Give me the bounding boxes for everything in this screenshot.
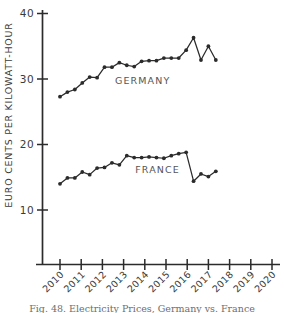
data-point-france [103, 166, 107, 170]
data-point-france [199, 172, 203, 176]
x-tick-label: 2016 [167, 269, 193, 295]
data-point-germany [125, 63, 129, 67]
data-point-france [140, 156, 144, 160]
data-point-france [162, 156, 166, 160]
x-tick-label: 2010 [40, 269, 66, 295]
data-point-france [95, 166, 99, 170]
data-point-france [207, 175, 211, 179]
data-point-germany [207, 44, 211, 48]
data-point-france [132, 156, 136, 160]
x-tick-label: 2017 [189, 269, 215, 295]
data-point-germany [140, 59, 144, 63]
data-point-france [117, 163, 121, 167]
data-point-germany [95, 76, 99, 80]
data-point-france [110, 161, 114, 165]
y-axis-title: EURO CENTS PER KILOWATT-HOUR [3, 22, 14, 207]
data-point-germany [184, 48, 188, 52]
data-point-germany [117, 61, 121, 65]
data-point-france [80, 170, 84, 174]
data-point-germany [103, 65, 107, 69]
data-point-germany [73, 88, 77, 92]
data-point-germany [162, 56, 166, 60]
x-tick-label: 2011 [61, 269, 87, 295]
series-line-germany [60, 38, 216, 97]
series-label-france: FRANCE [135, 164, 180, 175]
data-point-germany [88, 75, 92, 79]
data-point-germany [132, 65, 136, 69]
data-point-germany [155, 59, 159, 63]
data-point-france [147, 155, 151, 159]
x-tick-label: 2015 [146, 269, 172, 295]
data-point-france [184, 150, 188, 154]
x-tick-label: 2020 [252, 269, 278, 295]
data-point-france [125, 154, 129, 158]
series-points-germany [58, 36, 218, 99]
data-point-germany [80, 81, 84, 85]
data-point-france [192, 179, 196, 183]
data-point-france [214, 169, 218, 173]
data-point-germany [147, 59, 151, 63]
x-tick-label: 2018 [210, 269, 236, 295]
x-tick-label: 2013 [104, 269, 130, 295]
data-point-germany [177, 56, 181, 60]
data-point-germany [192, 36, 196, 40]
series-label-germany: GERMANY [115, 75, 170, 86]
y-tick-label: 30 [20, 73, 34, 85]
data-point-france [169, 154, 173, 158]
data-point-france [155, 156, 159, 160]
y-tick-label: 20 [20, 138, 34, 150]
data-point-germany [214, 58, 218, 62]
figure-caption: Fig. 48. Electricity Prices, Germany vs.… [0, 302, 284, 313]
data-point-germany [58, 95, 62, 99]
data-point-germany [66, 90, 70, 94]
y-tick-label: 10 [20, 204, 34, 216]
data-point-germany [199, 58, 203, 62]
y-axis-ticks: 10203040 [20, 7, 48, 216]
data-point-france [66, 176, 70, 180]
x-tick-label: 2012 [83, 269, 109, 295]
data-point-germany [169, 56, 173, 60]
y-tick-label: 40 [20, 7, 34, 19]
data-point-france [73, 176, 77, 180]
x-tick-label: 2019 [231, 269, 257, 295]
data-point-france [58, 182, 62, 186]
data-point-france [177, 152, 181, 156]
data-point-france [88, 173, 92, 177]
data-point-germany [110, 65, 114, 69]
x-tick-label: 2014 [125, 269, 151, 295]
